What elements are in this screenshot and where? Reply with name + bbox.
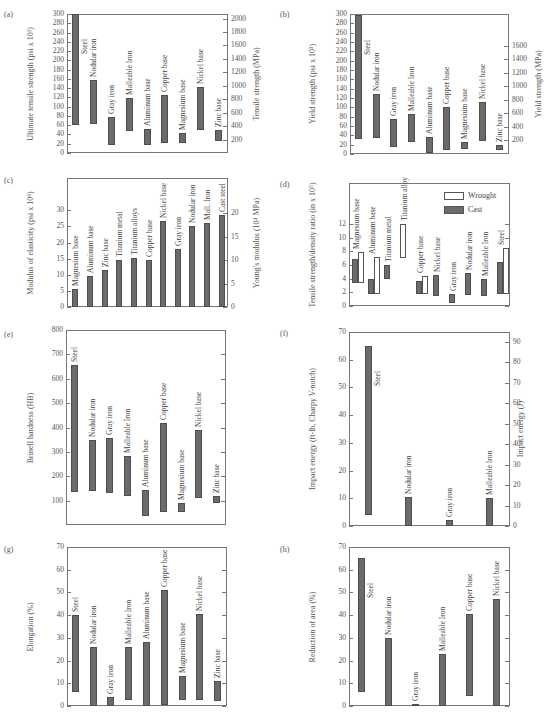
- y-right-tick: [222, 638, 226, 639]
- y-tick: [67, 134, 71, 135]
- y-right-tick: [221, 428, 225, 429]
- y-right-tick: [505, 615, 509, 616]
- y-tick: [67, 144, 71, 145]
- y-tick-label: 0: [325, 150, 347, 158]
- data-bar: [408, 114, 415, 142]
- bar-label: Copper base: [160, 383, 168, 420]
- y-right-tick: [504, 140, 508, 141]
- bar-label: Zinc base: [213, 464, 221, 493]
- bar-label: Gray iron: [107, 665, 115, 694]
- y-tick-label: 70: [42, 543, 64, 551]
- y-tick: [350, 51, 354, 52]
- y-tick-label: 40: [324, 611, 346, 619]
- y-tick-label: 20: [325, 141, 347, 149]
- y-tick-label: 240: [42, 38, 64, 46]
- y-right-tick: [505, 362, 509, 363]
- bar-label: Steel: [81, 39, 89, 54]
- y-tick: [349, 251, 353, 252]
- y-tick: [349, 526, 353, 527]
- data-bar: [213, 496, 220, 503]
- y-tick: [350, 154, 354, 155]
- y-tick-label: 50: [324, 588, 346, 596]
- y-right-tick: [222, 706, 226, 707]
- y-tick: [349, 706, 353, 707]
- y-tick: [350, 145, 354, 146]
- bar-label: Gray iron: [390, 87, 398, 116]
- y-tick-label: 100: [325, 103, 347, 111]
- y-right-tick: [223, 140, 227, 141]
- y-tick-label: 70: [324, 328, 346, 336]
- y-tick: [350, 23, 354, 24]
- bar-label: Nickel base: [196, 576, 204, 611]
- data-bar: [426, 137, 433, 152]
- data-bar: [446, 520, 453, 526]
- y-tick-label: 30: [324, 634, 346, 642]
- y-tick: [349, 306, 353, 307]
- bar-label: Aluminum base: [87, 225, 95, 273]
- y-tick-label: 20: [42, 140, 64, 148]
- y-tick: [67, 116, 71, 117]
- panel-label: (b): [280, 10, 289, 19]
- bar-label: Steel: [367, 583, 375, 598]
- y-tick-label: 12: [324, 220, 346, 228]
- y-tick: [67, 706, 71, 707]
- y-tick-label: 0: [324, 522, 346, 530]
- y-tick: [67, 107, 71, 108]
- y-tick-label: 30: [42, 206, 64, 214]
- y-right-tick: [221, 501, 225, 502]
- y-right-tick-label: 1600: [512, 42, 538, 50]
- y-tick-label: 10: [42, 271, 64, 279]
- bar-label: Mall. Iron: [204, 189, 212, 219]
- y-right-tick: [505, 547, 509, 548]
- y-tick: [66, 428, 70, 429]
- y-right-tick: [505, 403, 509, 404]
- data-bar: [72, 289, 78, 307]
- legend-swatch-wrought: [444, 192, 464, 200]
- y-right-tick-label: 1800: [231, 28, 257, 36]
- y-right-tick-label: 2000: [231, 15, 257, 23]
- data-bar: [72, 615, 79, 692]
- y-right-tick: [505, 224, 509, 225]
- data-bar: [443, 107, 450, 150]
- y-tick-label: 140: [325, 85, 347, 93]
- cast-bar: [449, 294, 455, 303]
- y-tick: [66, 379, 70, 380]
- y-tick-label: 0: [42, 303, 64, 311]
- bar-label: Steel: [374, 371, 382, 386]
- data-bar: [496, 145, 503, 151]
- data-bar: [493, 599, 500, 706]
- data-bar: [161, 95, 168, 143]
- y-tick-label: 25: [42, 222, 64, 230]
- y-tick: [67, 79, 71, 80]
- data-bar: [125, 647, 132, 700]
- bar-label: Aluminum base: [143, 592, 151, 640]
- bar-label: Gray iron: [450, 262, 458, 291]
- bar-label: Malleable Iron: [125, 600, 133, 644]
- bar-label: Nodular iron: [373, 53, 381, 92]
- y-tick-label: 30: [42, 634, 64, 642]
- y-tick: [67, 592, 71, 593]
- y-right-axis-label: Tensile strength (MPa): [252, 47, 261, 120]
- y-tick: [67, 683, 71, 684]
- y-right-tick: [223, 59, 227, 60]
- y-tick-label: 60: [42, 566, 64, 574]
- data-bar: [102, 270, 108, 307]
- y-right-axis-label: Yield strength (MPa): [534, 50, 543, 118]
- bar-label: Aluminum base: [426, 86, 434, 134]
- y-right-tick: [223, 99, 227, 100]
- y-right-tick: [505, 506, 509, 507]
- y-tick-label: 500: [41, 399, 63, 407]
- y-tick-label: 6: [324, 261, 346, 269]
- y-tick: [67, 638, 71, 639]
- y-right-tick-label: 0: [513, 522, 539, 530]
- y-tick: [67, 291, 71, 292]
- y-tick-label: 20: [324, 467, 346, 475]
- legend-item-cast: Cast: [444, 205, 482, 214]
- y-right-tick: [505, 592, 509, 593]
- y-tick-label: 60: [42, 121, 64, 129]
- data-bar: [161, 590, 168, 705]
- y-tick: [67, 97, 71, 98]
- y-tick: [350, 70, 354, 71]
- y-tick: [67, 661, 71, 662]
- y-tick: [67, 33, 71, 34]
